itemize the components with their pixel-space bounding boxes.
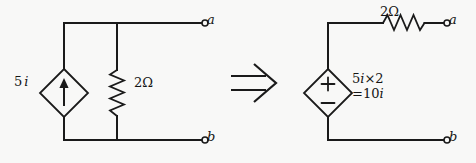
circuit-canvas <box>0 0 476 163</box>
right-source-label-line1: 5i×2 <box>352 72 384 87</box>
left-resistor-label: 2Ω <box>134 76 153 91</box>
implies-arrow-group <box>231 64 276 102</box>
dependent-voltage-source-diamond <box>304 69 352 117</box>
right-source-label-line2: =10i <box>352 87 384 102</box>
right-source-label: 5i×2 =10i <box>352 72 384 101</box>
left-circuit-group <box>40 20 208 143</box>
resistor-zigzag-left <box>110 70 124 116</box>
current-source-arrow-head <box>59 78 68 88</box>
implies-arrow-head <box>254 64 276 102</box>
right-source-label-line2-equals: =10 <box>352 86 379 101</box>
right-source-label-line2-variable: i <box>379 86 383 101</box>
right-resistor-label: 2Ω <box>380 5 399 20</box>
left-terminal-b-label: b <box>207 130 215 145</box>
right-source-label-line1-multiplier: ×2 <box>364 71 383 86</box>
left-source-label: 5i <box>14 75 28 90</box>
right-terminal-a-label: a <box>449 13 457 28</box>
left-terminal-a-label: a <box>207 13 215 28</box>
circuit-figure: 5i 2Ω a b 2Ω 5i×2 =10i a b <box>0 0 476 163</box>
right-terminal-b-label: b <box>449 130 457 145</box>
left-source-label-variable: i <box>22 74 28 89</box>
